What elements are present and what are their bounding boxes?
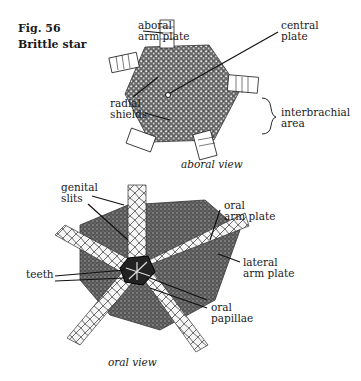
oral-view-label: oral view (108, 356, 157, 368)
label-oral-papillae: oral papillae (211, 302, 253, 324)
label-genital-slits: genital slits (61, 182, 98, 204)
label-radial-shields: radial shields (110, 98, 147, 120)
label-aboral-arm-plate: aboral arm plate (138, 20, 189, 42)
label-lateral-arm-plate: lateral arm plate (243, 257, 294, 279)
label-teeth: teeth (26, 269, 54, 280)
label-central-plate: central plate (281, 20, 319, 42)
label-interbrachial-area: interbrachial area (281, 107, 350, 129)
brittle-star-illustration (0, 0, 361, 381)
aboral-view-label: aboral view (181, 158, 243, 170)
label-oral-arm-plate: oral arm plate (224, 200, 275, 222)
